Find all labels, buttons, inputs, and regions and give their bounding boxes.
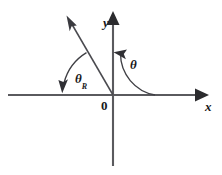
theta-label-glyph: θ: [130, 57, 137, 72]
theta-r-label-glyph: θ: [75, 71, 82, 86]
theta-label: θ: [130, 58, 137, 71]
x-axis-label: x: [205, 100, 212, 113]
theta-r-arc-arrowhead-icon: [58, 79, 68, 93]
theta-arc-path: [120, 54, 155, 95]
y-axis-label: y: [103, 16, 109, 29]
theta-r-label-subscript: R: [82, 82, 87, 91]
origin-label: 0: [101, 99, 108, 112]
reference-angle-figure: y x 0 θ θR: [0, 0, 222, 175]
theta-r-label: θR: [75, 72, 87, 89]
x-axis: [8, 89, 209, 102]
coordinate-plane-svg: [0, 0, 222, 175]
